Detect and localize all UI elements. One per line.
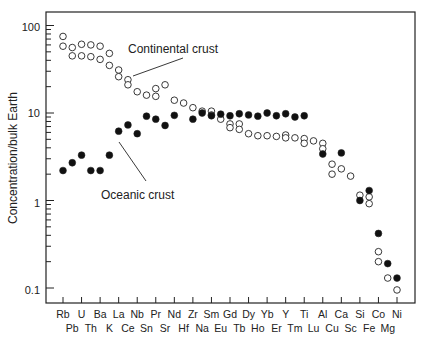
x-label-lu: Lu bbox=[308, 322, 320, 334]
continental-point-fe bbox=[366, 200, 373, 207]
oceanic-point-nb bbox=[134, 130, 141, 137]
x-label-al: Al bbox=[318, 308, 327, 320]
x-label-fe: Fe bbox=[363, 322, 375, 334]
oceanic-point-gd bbox=[227, 112, 234, 119]
x-label-si: Si bbox=[355, 308, 364, 320]
oceanic-point-yb bbox=[264, 110, 271, 117]
continental-point-u bbox=[78, 41, 85, 48]
oceanic-point-tb bbox=[236, 110, 243, 117]
continental-point-dy bbox=[245, 130, 252, 137]
oceanic-point-sr bbox=[162, 122, 169, 129]
continental-point-k bbox=[106, 62, 113, 69]
continental-point-co bbox=[375, 248, 382, 255]
x-label-ti: Ti bbox=[300, 308, 308, 320]
continental-point-pb bbox=[69, 53, 76, 60]
continental-point-u bbox=[78, 53, 85, 60]
continental-point-ho bbox=[255, 132, 262, 139]
x-label-th: Th bbox=[85, 322, 97, 334]
oceanic-point-ca bbox=[338, 149, 345, 156]
x-label-la: La bbox=[113, 308, 125, 320]
continental-point-sr bbox=[162, 82, 169, 89]
x-label-rb: Rb bbox=[56, 308, 70, 320]
x-label-sc: Sc bbox=[344, 322, 356, 334]
continental-point-nb bbox=[134, 88, 141, 95]
continental-point-gd bbox=[227, 124, 234, 131]
continental-point-tm bbox=[292, 135, 299, 142]
annotation-oceanic-crust: Oceanic crust bbox=[101, 188, 175, 202]
continental-point-er bbox=[273, 133, 280, 140]
oceanic-point-si bbox=[356, 197, 363, 204]
continental-point-zr bbox=[190, 104, 197, 111]
oceanic-point-nd bbox=[171, 112, 178, 119]
x-label-ho: Ho bbox=[251, 322, 265, 334]
continental-point-la bbox=[115, 67, 122, 74]
x-label-yb: Yb bbox=[261, 308, 274, 320]
x-axis-labels: RbPbUThBaKLaCeNbSnPrSrNdHfZrNaSmEuGdTbDy… bbox=[56, 308, 402, 334]
x-label-y: Y bbox=[282, 308, 289, 320]
continental-point-co bbox=[375, 258, 382, 265]
continental-point-rb bbox=[60, 33, 67, 40]
x-axis-ticks bbox=[63, 297, 397, 303]
y-axis-label: Concentration/bulk Earth bbox=[6, 92, 20, 224]
annotation-leader-oceanic bbox=[119, 142, 146, 181]
x-label-pb: Pb bbox=[66, 322, 79, 334]
continental-point-ba bbox=[97, 56, 104, 63]
x-label-sm: Sm bbox=[204, 308, 220, 320]
y-tick-100: 100 bbox=[22, 21, 40, 33]
oceanic-point-eu bbox=[217, 111, 224, 118]
x-label-cu: Cu bbox=[325, 322, 339, 334]
y-tick-1: 1 bbox=[34, 197, 40, 209]
continental-point-th bbox=[88, 42, 95, 49]
x-label-pr: Pr bbox=[151, 308, 162, 320]
oceanic-point-rb bbox=[60, 167, 67, 174]
oceanic-point-fe bbox=[366, 187, 373, 194]
oceanic-point-ba bbox=[97, 167, 104, 174]
x-label-ce: Ce bbox=[121, 322, 135, 334]
continental-point-sc bbox=[347, 173, 354, 180]
continental-point-ni bbox=[394, 287, 401, 294]
continental-point-la bbox=[115, 73, 122, 80]
continental-point-ba bbox=[97, 43, 104, 50]
continental-point-pr bbox=[152, 85, 159, 92]
continental-point-nd bbox=[171, 97, 178, 104]
oceanic-point-ho bbox=[254, 113, 261, 120]
oceanic-point-sm bbox=[208, 112, 215, 119]
oceanic-point-ni bbox=[394, 275, 401, 282]
oceanic-point-pb bbox=[69, 159, 76, 166]
continental-point-mg bbox=[384, 275, 391, 282]
oceanic-point-dy bbox=[245, 112, 252, 119]
continental-point-ce bbox=[125, 82, 132, 89]
oceanic-point-ti bbox=[301, 112, 308, 119]
oceanic-point-tm bbox=[292, 114, 299, 121]
continental-point-th bbox=[88, 53, 95, 60]
x-label-mg: Mg bbox=[380, 322, 395, 334]
continental-point-pr bbox=[152, 93, 159, 100]
oceanic-point-ce bbox=[125, 122, 132, 129]
x-label-sn: Sn bbox=[140, 322, 153, 334]
oceanic-point-k bbox=[106, 152, 113, 159]
x-label-dy: Dy bbox=[242, 308, 256, 320]
x-label-ni: Ni bbox=[392, 308, 402, 320]
continental-point-lu bbox=[310, 138, 317, 145]
x-label-na: Na bbox=[195, 322, 209, 334]
y-tick-10: 10 bbox=[28, 107, 40, 119]
oceanic-point-mg bbox=[384, 260, 391, 267]
oceanic-point-sn bbox=[143, 113, 150, 120]
x-label-tm: Tm bbox=[287, 322, 302, 334]
continental-point-rb bbox=[60, 43, 67, 50]
oceanic-point-th bbox=[87, 167, 94, 174]
oceanic-point-er bbox=[273, 112, 280, 119]
y-axis-ticks bbox=[46, 26, 54, 289]
continental-point-pb bbox=[69, 44, 76, 51]
continental-point-ca bbox=[338, 166, 345, 173]
x-label-u: U bbox=[78, 308, 86, 320]
oceanic-point-co bbox=[375, 230, 382, 237]
x-label-nd: Nd bbox=[168, 308, 182, 320]
oceanic-point-zr bbox=[189, 116, 196, 123]
x-label-hf: Hf bbox=[178, 322, 189, 334]
continental-point-ti bbox=[301, 140, 308, 147]
x-label-ca: Ca bbox=[335, 308, 349, 320]
y-tick-0.1: 0.1 bbox=[25, 284, 40, 296]
annotation-continental-crust: Continental crust bbox=[128, 42, 219, 56]
continental-point-sn bbox=[143, 92, 150, 99]
